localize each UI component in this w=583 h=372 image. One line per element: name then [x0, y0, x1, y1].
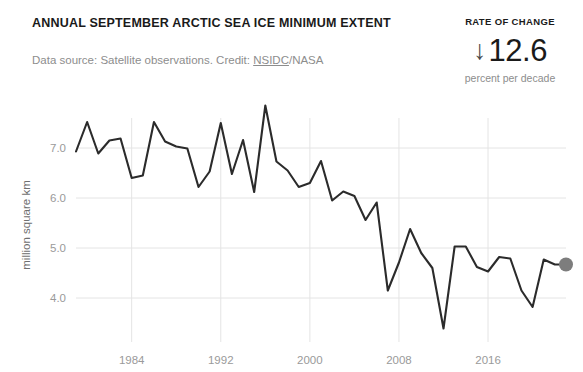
x-axis-ticks: 19841992200020082016	[119, 354, 501, 366]
rate-of-change-value-row: ↓ 12.6	[445, 35, 575, 66]
rate-of-change-label: RATE OF CHANGE	[445, 16, 575, 27]
grid-lines	[76, 118, 566, 342]
x-axis-tick-label: 2008	[386, 354, 412, 366]
y-axis-tick-label: 4.0	[50, 292, 66, 304]
subtitle-prefix: Data source: Satellite observations. Cre…	[32, 54, 253, 66]
x-axis-tick-label: 1984	[119, 354, 145, 366]
x-axis-tick-label: 1992	[208, 354, 234, 366]
chart-page: ANNUAL SEPTEMBER ARCTIC SEA ICE MINIMUM …	[0, 0, 583, 372]
y-axis-tick-label: 6.0	[50, 192, 66, 204]
chart-plot-area: 4.05.06.07.0 19841992200020082016 millio…	[0, 104, 583, 372]
y-axis-tick-label: 5.0	[50, 242, 66, 254]
sea-ice-line-chart: 4.05.06.07.0 19841992200020082016 millio…	[0, 104, 583, 372]
y-axis-ticks: 4.05.06.07.0	[50, 142, 66, 304]
x-axis-tick-label: 2016	[475, 354, 501, 366]
y-axis-tick-label: 7.0	[50, 142, 66, 154]
rate-of-change-value: 12.6	[489, 35, 547, 66]
rate-of-change-unit: percent per decade	[445, 72, 575, 84]
chart-header: ANNUAL SEPTEMBER ARCTIC SEA ICE MINIMUM …	[0, 0, 583, 110]
rate-of-change-panel: RATE OF CHANGE ↓ 12.6 percent per decade	[445, 16, 575, 84]
chart-subtitle: Data source: Satellite observations. Cre…	[32, 54, 323, 66]
nsidc-link[interactable]: NSIDC	[253, 54, 289, 66]
x-axis-tick-label: 2000	[297, 354, 323, 366]
endpoint-marker	[559, 258, 573, 272]
y-axis-title: million square km	[20, 180, 32, 269]
arrow-down-icon: ↓	[473, 37, 487, 64]
page-title: ANNUAL SEPTEMBER ARCTIC SEA ICE MINIMUM …	[32, 16, 391, 30]
subtitle-suffix: /NASA	[289, 54, 324, 66]
data-series-line	[76, 106, 566, 329]
